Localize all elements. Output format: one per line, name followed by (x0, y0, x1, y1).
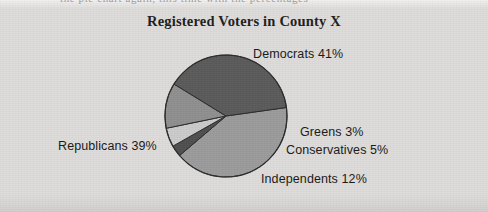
page-bottom-edge (0, 194, 488, 212)
pie-label-greens: Greens 3% (300, 125, 363, 139)
page-title: Registered Voters in County X (0, 13, 488, 30)
pie-chart-svg (164, 54, 288, 178)
cut-off-text-line: the pie chart again, this time with the … (0, 0, 488, 7)
pie-chart (164, 54, 288, 178)
pie-label-independents: Independents 12% (261, 172, 367, 186)
pie-slice-group (165, 55, 287, 177)
pie-label-democrats: Democrats 41% (253, 47, 343, 61)
scanned-page: the pie chart again, this time with the … (0, 0, 488, 212)
pie-label-republicans: Republicans 39% (58, 139, 157, 153)
pie-label-conservatives: Conservatives 5% (286, 143, 388, 157)
cut-off-text: the pie chart again, this time with the … (60, 0, 308, 4)
